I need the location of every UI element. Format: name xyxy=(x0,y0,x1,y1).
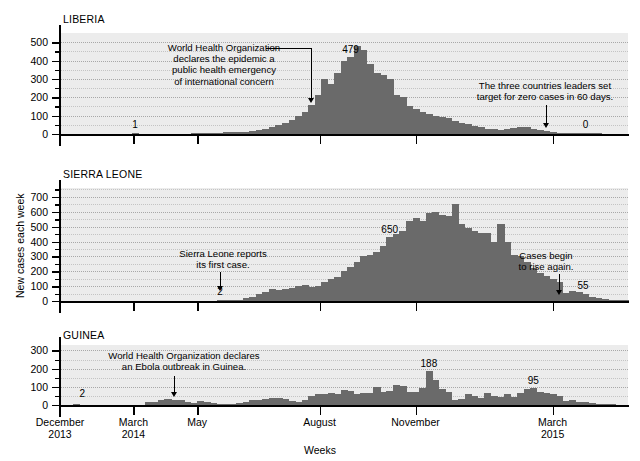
annotation-arrow-head xyxy=(171,392,177,397)
panel-title: GUINEA xyxy=(63,330,104,341)
y-tick xyxy=(52,369,60,370)
x-tick-label: May xyxy=(152,416,242,428)
y-tick-label: 300 xyxy=(4,345,48,356)
point-value-label: 2 xyxy=(72,389,92,399)
x-tick xyxy=(553,407,554,415)
chart-panel-guinea: GUINEA0100200300188295World Health Organ… xyxy=(0,0,640,461)
y-tick-label: 200 xyxy=(4,364,48,375)
y-tick-label: 0 xyxy=(4,400,48,411)
x-tick-label: August xyxy=(275,416,365,428)
x-tick-label: November xyxy=(371,416,461,428)
x-tick-label: March2015 xyxy=(508,416,598,440)
y-tick xyxy=(52,405,60,406)
annotation-text: World Health Organization declares an Eb… xyxy=(66,350,302,372)
x-tick xyxy=(320,407,321,415)
peak-value-label: 188 xyxy=(409,359,449,369)
y-tick-label: 100 xyxy=(4,382,48,393)
y-tick xyxy=(52,350,60,351)
y-tick-minor xyxy=(55,360,60,361)
y-tick-minor xyxy=(55,378,60,379)
y-tick xyxy=(52,387,60,388)
y-tick-minor xyxy=(55,396,60,397)
x-tick xyxy=(133,407,134,415)
x-tick xyxy=(197,407,198,415)
x-tick xyxy=(60,407,61,415)
x-tick xyxy=(416,407,417,415)
ebola-epidemic-curve-figure: New cases each week Weeks LIBERIA0100200… xyxy=(0,0,640,461)
x-axis-line xyxy=(59,405,629,407)
point-value-label: 95 xyxy=(518,376,548,386)
